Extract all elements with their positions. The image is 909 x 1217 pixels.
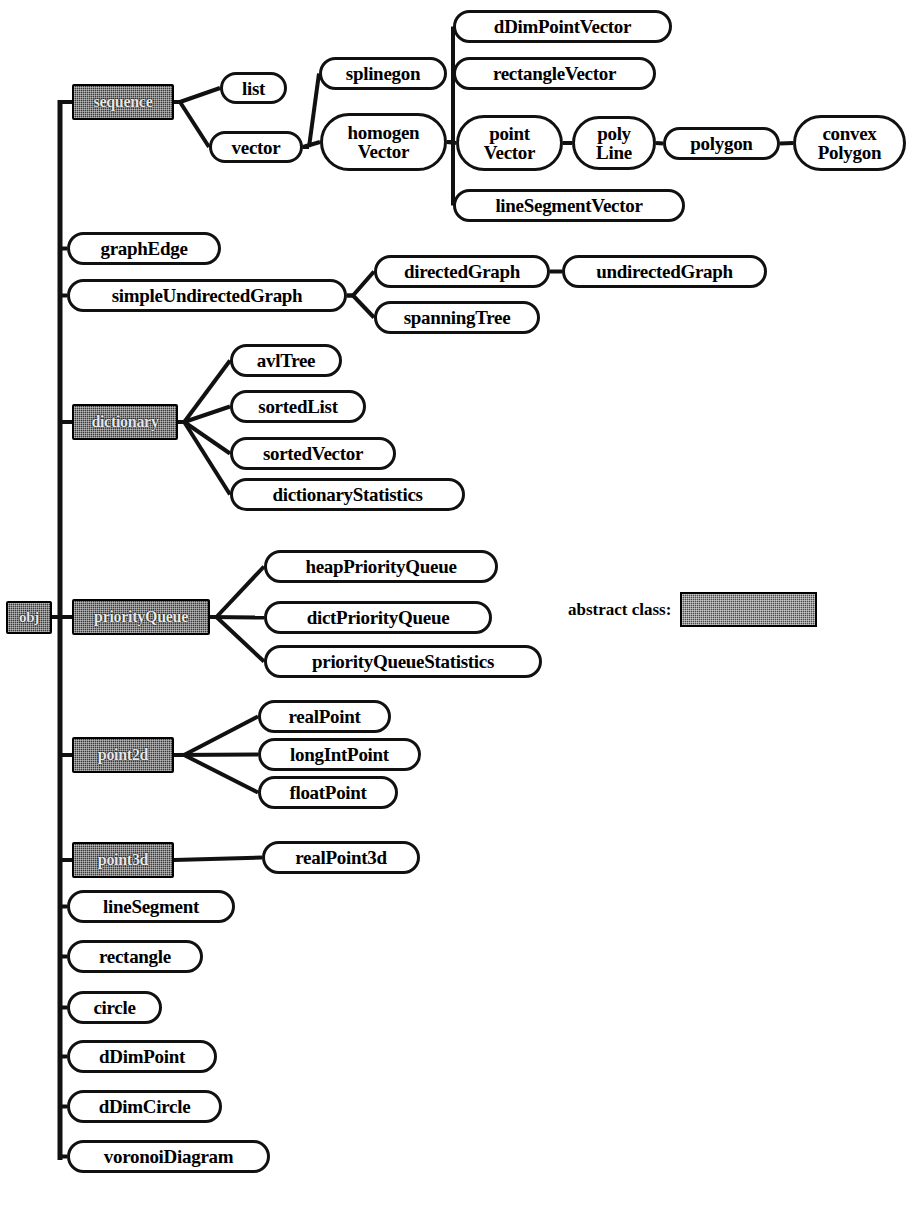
edge-priorityQueue-priorityQueueStatistics xyxy=(216,617,264,662)
class-node-label: dDimCircle xyxy=(70,1097,219,1116)
class-node-label: voronoiDiagram xyxy=(70,1147,267,1166)
class-node-simpleUndirectedGraph[interactable]: simpleUndirectedGraph xyxy=(67,279,347,312)
edge-polyLine-polygon xyxy=(656,143,663,144)
class-node-label: dDimPoint xyxy=(70,1047,214,1066)
edge-vector-splinegon xyxy=(309,74,319,148)
class-node-label: heapPriorityQueue xyxy=(267,557,495,576)
class-node-dDimPoint[interactable]: dDimPoint xyxy=(67,1040,217,1073)
class-node-sortedList[interactable]: sortedList xyxy=(230,390,366,423)
class-node-realPoint[interactable]: realPoint xyxy=(258,700,391,733)
class-node-label: dictionaryStatistics xyxy=(233,485,462,504)
class-node-label: polygon xyxy=(666,134,777,153)
class-node-pointVector[interactable]: point Vector xyxy=(456,115,563,171)
class-node-rectangle[interactable]: rectangle xyxy=(67,940,203,973)
class-node-directedGraph[interactable]: directedGraph xyxy=(374,255,550,288)
class-node-label: list xyxy=(223,79,284,98)
class-node-graphEdge[interactable]: graphEdge xyxy=(67,232,221,265)
edge-priorityQueue-heapPriorityQueue xyxy=(216,567,264,618)
class-node-label: graphEdge xyxy=(70,239,218,258)
class-node-longIntPoint[interactable]: longIntPoint xyxy=(258,738,421,771)
class-node-convexPolygon[interactable]: convex Polygon xyxy=(793,115,906,171)
class-hierarchy-diagram: objsequencelistvectorsplinegonhomogen Ve… xyxy=(0,0,909,1217)
class-node-label: splinegon xyxy=(322,64,444,83)
class-node-polyLine[interactable]: poly Line xyxy=(572,116,656,170)
class-node-label: rectangle xyxy=(70,947,200,966)
edge-point2d-floatPoint xyxy=(184,755,258,793)
class-node-label: priorityQueueStatistics xyxy=(267,652,539,671)
class-node-label: obj xyxy=(8,610,50,625)
class-node-label: simpleUndirectedGraph xyxy=(70,286,344,305)
class-node-realPoint3d[interactable]: realPoint3d xyxy=(262,841,420,874)
class-node-lineSegment[interactable]: lineSegment xyxy=(67,890,235,923)
class-node-label: sequence xyxy=(74,94,172,110)
class-node-label: sortedVector xyxy=(233,444,393,463)
class-node-label: undirectedGraph xyxy=(565,262,764,281)
class-node-rectangleVector[interactable]: rectangleVector xyxy=(453,57,656,90)
edge-dictionary-sortedVector xyxy=(184,422,230,454)
class-node-label: realPoint xyxy=(261,707,388,726)
class-node-undirectedGraph[interactable]: undirectedGraph xyxy=(562,255,767,288)
edge-dictionary-dictionaryStatistics xyxy=(184,422,230,495)
edge-polygon-convexPolygon xyxy=(780,143,793,144)
class-node-spanningTree[interactable]: spanningTree xyxy=(374,301,540,334)
class-node-priorityQueueStatistics[interactable]: priorityQueueStatistics xyxy=(264,645,542,678)
class-node-label: point2d xyxy=(74,747,172,763)
class-node-label: vector xyxy=(212,138,300,157)
class-node-label: spanningTree xyxy=(377,308,537,327)
class-node-list[interactable]: list xyxy=(220,72,287,104)
class-node-label: longIntPoint xyxy=(261,745,418,764)
class-node-polygon[interactable]: polygon xyxy=(663,127,780,160)
class-node-label: point3d xyxy=(74,852,172,868)
class-node-label: convex Polygon xyxy=(796,124,903,162)
class-node-label: homogen Vector xyxy=(323,123,444,161)
class-node-homogenVector[interactable]: homogen Vector xyxy=(320,113,447,171)
class-node-label: lineSegment xyxy=(70,897,232,916)
edge-simpleUndirectedGraph-directedGraph xyxy=(353,272,374,296)
legend: abstract class: xyxy=(568,592,817,627)
class-node-point2d[interactable]: point2d xyxy=(72,737,174,773)
class-node-lineSegmentVector[interactable]: lineSegmentVector xyxy=(453,189,685,222)
edge-sequence-vector xyxy=(180,102,209,147)
class-node-obj[interactable]: obj xyxy=(6,601,52,634)
class-node-dictionary[interactable]: dictionary xyxy=(72,404,178,440)
edge-point2d-realPoint xyxy=(184,717,258,756)
class-node-label: realPoint3d xyxy=(265,848,417,867)
class-node-priorityQueue[interactable]: priorityQueue xyxy=(72,599,210,635)
class-node-vector[interactable]: vector xyxy=(209,131,303,163)
edge-sequence-list xyxy=(180,88,220,102)
edge-simpleUndirectedGraph-spanningTree xyxy=(353,296,374,318)
class-node-label: directedGraph xyxy=(377,262,547,281)
class-node-label: poly Line xyxy=(575,124,653,162)
class-node-label: circle xyxy=(70,998,159,1017)
class-node-label: dDimPointVector xyxy=(456,17,669,36)
legend-label: abstract class: xyxy=(568,600,671,620)
class-node-splinegon[interactable]: splinegon xyxy=(319,57,447,90)
class-node-label: dictPriorityQueue xyxy=(267,608,489,627)
edge-point3d-realPoint3d xyxy=(174,858,262,861)
class-node-avlTree[interactable]: avlTree xyxy=(230,344,342,377)
class-node-label: dictionary xyxy=(74,414,176,430)
class-node-heapPriorityQueue[interactable]: heapPriorityQueue xyxy=(264,550,498,583)
class-node-dictionaryStatistics[interactable]: dictionaryStatistics xyxy=(230,478,465,511)
class-node-dDimPointVector[interactable]: dDimPointVector xyxy=(453,10,672,43)
edge-vector-homogenVector xyxy=(303,142,320,147)
class-node-voronoiDiagram[interactable]: voronoiDiagram xyxy=(67,1140,270,1173)
class-node-label: sortedList xyxy=(233,397,363,416)
class-node-label: priorityQueue xyxy=(74,609,208,625)
class-node-dictPriorityQueue[interactable]: dictPriorityQueue xyxy=(264,601,492,634)
class-node-sortedVector[interactable]: sortedVector xyxy=(230,437,396,470)
class-node-circle[interactable]: circle xyxy=(67,991,162,1024)
class-node-dDimCircle[interactable]: dDimCircle xyxy=(67,1090,222,1123)
class-node-label: floatPoint xyxy=(261,783,395,802)
class-node-sequence[interactable]: sequence xyxy=(72,84,174,120)
class-node-label: point Vector xyxy=(459,124,560,162)
abstract-class-swatch xyxy=(680,592,817,627)
class-node-point3d[interactable]: point3d xyxy=(72,842,174,878)
class-node-floatPoint[interactable]: floatPoint xyxy=(258,776,398,809)
class-node-label: lineSegmentVector xyxy=(456,196,682,215)
class-node-label: avlTree xyxy=(233,351,339,370)
class-node-label: rectangleVector xyxy=(456,64,653,83)
